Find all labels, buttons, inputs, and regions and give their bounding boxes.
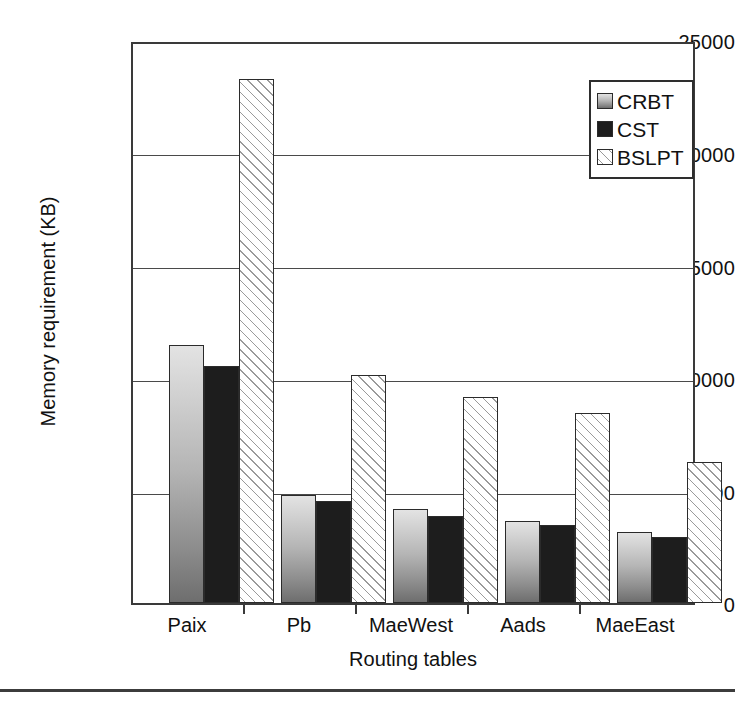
bar-maewest-bslpt [463, 397, 498, 603]
bar-aads-bslpt [575, 413, 610, 603]
legend-swatch-bslpt-icon [597, 149, 613, 165]
bar-pb-crbt [281, 495, 316, 603]
bar-maewest-cst [428, 516, 463, 603]
bar-maeeast-crbt [617, 532, 652, 603]
x-axis-title: Routing tables [131, 648, 695, 671]
legend-label-cst: CST [617, 119, 659, 140]
x-tick-label-paix: Paix [131, 614, 243, 637]
x-tick-label-maewest: MaeWest [355, 614, 467, 637]
x-tick-label-maeeast: MaeEast [579, 614, 691, 637]
bar-chart-figure: 25000 20000 15000 10000 5000 0 Memory re… [0, 0, 735, 706]
x-tick-mark-3 [467, 605, 469, 614]
bar-maeeast-cst [652, 537, 687, 603]
page-separator-rule [0, 689, 735, 692]
x-tick-label-aads: Aads [467, 614, 579, 637]
legend-entry-bslpt: BSLPT [597, 143, 684, 171]
bar-paix-bslpt [239, 79, 274, 603]
legend-swatch-crbt-icon [597, 93, 613, 109]
bar-pb-bslpt [351, 375, 386, 603]
bar-maewest-crbt [393, 509, 428, 603]
bar-pb-cst [316, 501, 351, 603]
bar-maeeast-bslpt [687, 462, 722, 603]
legend-entry-cst: CST [597, 115, 684, 143]
x-tick-mark-1 [243, 605, 245, 614]
x-tick-mark-2 [355, 605, 357, 614]
legend-entry-crbt: CRBT [597, 87, 684, 115]
legend-label-bslpt: BSLPT [617, 147, 684, 168]
bar-aads-crbt [505, 521, 540, 603]
x-tick-mark-4 [579, 605, 581, 614]
legend-label-crbt: CRBT [617, 91, 674, 112]
y-axis-title: Memory requirement (KB) [37, 32, 60, 592]
gridline-15000 [133, 268, 693, 269]
bar-aads-cst [540, 525, 575, 603]
bar-paix-crbt [169, 345, 204, 603]
chart-legend: CRBT CST BSLPT [589, 80, 694, 179]
bar-paix-cst [204, 366, 239, 603]
legend-swatch-cst-icon [597, 121, 613, 137]
x-tick-label-pb: Pb [243, 614, 355, 637]
